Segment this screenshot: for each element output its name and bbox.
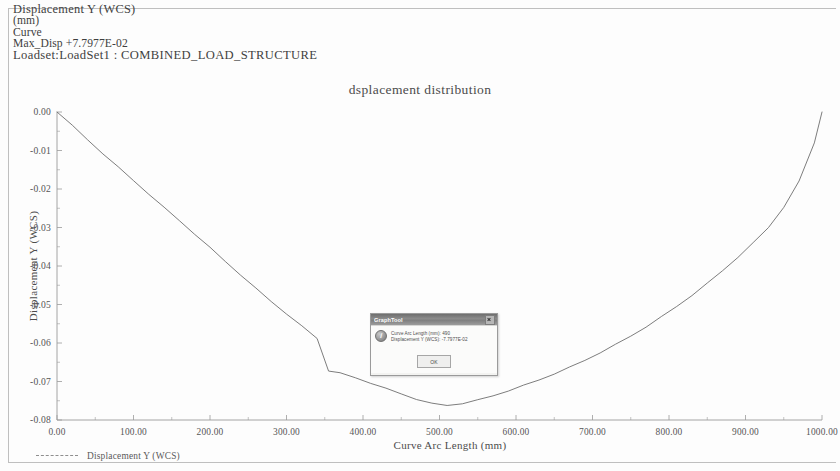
info-icon — [375, 330, 387, 342]
plot-area: Displacement Y (WCS) Curve Arc Length (m… — [0, 0, 840, 471]
dialog-message-row: Curve Arc Length (mm): 490 Displacement … — [375, 330, 493, 343]
y-tick-label: -0.08 — [9, 414, 51, 425]
x-tick-label: 600.00 — [486, 427, 546, 437]
y-tick-label: -0.07 — [9, 376, 51, 387]
y-tick-label: -0.01 — [9, 145, 51, 156]
y-tick-label: -0.02 — [9, 183, 51, 194]
y-tick-label: -0.06 — [9, 337, 51, 348]
x-tick-label: 900.00 — [716, 427, 776, 437]
y-tick-label: -0.03 — [9, 222, 51, 233]
x-tick-label: 700.00 — [563, 427, 623, 437]
x-tick-label: 800.00 — [639, 427, 699, 437]
x-tick-label: 1000.00 — [792, 427, 840, 437]
plot-canvas — [0, 0, 840, 471]
graphtool-dialog[interactable]: GraphTool Curve Arc Length (mm): 490 Dis… — [370, 313, 498, 376]
y-tick-label: -0.05 — [9, 299, 51, 310]
x-tick-label: 100.00 — [104, 427, 164, 437]
close-icon[interactable] — [485, 315, 495, 325]
dialog-titlebar[interactable]: GraphTool — [371, 314, 497, 325]
x-tick-label: 500.00 — [410, 427, 470, 437]
dialog-title: GraphTool — [374, 317, 403, 323]
scanned-page: Displacement Y (WCS) (mm) Curve Max_Disp… — [0, 0, 840, 471]
chart-legend: Displacement Y (WCS) — [36, 451, 180, 461]
x-tick-label: 400.00 — [333, 427, 393, 437]
legend-label: Displacement Y (WCS) — [87, 451, 180, 461]
dialog-message-line-2: Displacement Y (WCS): -7.7977E-02 — [391, 337, 468, 343]
x-tick-label: 300.00 — [257, 427, 317, 437]
ok-button[interactable]: OK — [417, 355, 451, 368]
dialog-body: Curve Arc Length (mm): 490 Displacement … — [371, 325, 497, 373]
x-axis-title: Curve Arc Length (mm) — [60, 439, 840, 451]
legend-line-swatch — [36, 455, 78, 457]
x-tick-label: 200.00 — [180, 427, 240, 437]
dialog-message: Curve Arc Length (mm): 490 Displacement … — [391, 330, 468, 343]
y-tick-label: 0.00 — [9, 106, 51, 117]
dialog-button-row: OK — [371, 355, 497, 368]
y-tick-label: -0.04 — [9, 260, 51, 271]
x-tick-label: 0.00 — [27, 427, 87, 437]
